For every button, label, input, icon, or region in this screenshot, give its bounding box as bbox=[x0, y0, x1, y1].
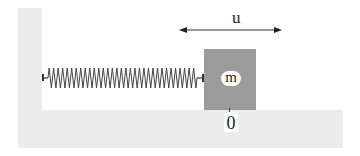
origin-label: 0 bbox=[224, 112, 238, 132]
displacement-arrow bbox=[179, 27, 282, 33]
diagram-lines bbox=[0, 0, 360, 156]
spring-coil bbox=[48, 68, 197, 88]
mass-label: m bbox=[221, 71, 241, 86]
spring-right-attachment bbox=[197, 74, 203, 82]
spring-left-attachment bbox=[43, 74, 48, 81]
displacement-label: u bbox=[232, 8, 241, 28]
